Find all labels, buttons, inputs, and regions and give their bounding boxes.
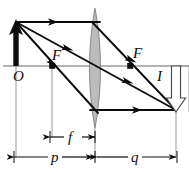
focal-left-label: F: [51, 47, 62, 63]
focal-point-right-marker: [127, 63, 133, 69]
ray-diagram-figure: O F F I f p q: [0, 0, 189, 171]
image-distance-dimension: q: [97, 149, 176, 165]
image-arrow: [167, 66, 186, 112]
focal-ray-incident: [16, 22, 98, 113]
object-label: O: [13, 68, 24, 84]
object-distance-dimension: p: [14, 149, 93, 165]
focal-length-label: f: [68, 129, 74, 145]
focal-length-dimension: f: [50, 129, 95, 145]
guide-lines: [16, 66, 189, 157]
object-distance-label: p: [50, 149, 59, 165]
image-label: I: [156, 68, 163, 84]
focal-point-left-marker: [49, 63, 55, 69]
image-distance-label: q: [131, 149, 139, 165]
image-arrow-outline: [167, 66, 186, 112]
focal-right-label: F: [132, 45, 143, 61]
ray-diagram-canvas: O F F I f p q: [0, 0, 189, 171]
